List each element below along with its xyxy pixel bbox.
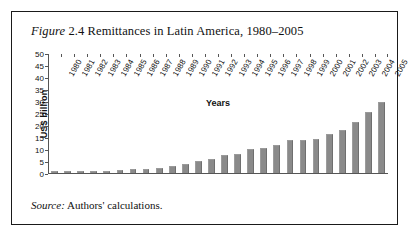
bar — [300, 140, 307, 174]
chart-plot-area: US$ billion 05101520253035404550 1980198… — [48, 54, 388, 174]
bar — [247, 149, 254, 174]
y-axis-tick-label: 20 — [35, 122, 44, 131]
y-axis-tick-labels: 05101520253035404550 — [24, 54, 44, 174]
bar — [352, 122, 359, 174]
bar — [365, 112, 372, 174]
x-axis-title: Years — [48, 98, 388, 108]
y-axis-tick-label: 50 — [35, 50, 44, 59]
figure-caption-text: 2.4 Remittances in Latin America, 1980–2… — [65, 24, 303, 38]
y-axis-tick-label: 45 — [35, 62, 44, 71]
y-axis-tick-mark — [45, 174, 48, 175]
source-text: Authors' calculations. — [65, 199, 163, 211]
figure-caption: Figure 2.4 Remittances in Latin America,… — [31, 24, 304, 39]
y-axis-tick-label: 40 — [35, 74, 44, 83]
x-axis-tick-label: 1980 — [66, 58, 83, 78]
bar — [326, 134, 333, 174]
y-axis-tick-label: 25 — [35, 110, 44, 119]
bar — [378, 102, 385, 174]
y-axis-tick-label: 35 — [35, 86, 44, 95]
y-axis-tick-label: 0 — [40, 170, 44, 179]
bar — [273, 145, 280, 174]
figure-frame: Figure 2.4 Remittances in Latin America,… — [11, 11, 398, 225]
bar — [339, 130, 346, 174]
bar — [313, 139, 320, 174]
bar — [221, 155, 228, 174]
y-axis-tick-label: 10 — [35, 146, 44, 155]
y-axis-tick-label: 15 — [35, 134, 44, 143]
y-axis-tick-label: 5 — [40, 158, 44, 167]
y-axis-tick-label: 30 — [35, 98, 44, 107]
bar — [234, 154, 241, 174]
bar — [208, 159, 215, 174]
source-label: Source: — [31, 199, 65, 211]
source-note: Source: Authors' calculations. — [31, 199, 162, 211]
bar — [260, 148, 267, 174]
x-axis-line — [48, 173, 388, 174]
x-axis-tick-labels: 1980198119821983198419851986198719881989… — [48, 54, 388, 94]
figure-caption-label: Figure — [31, 24, 65, 38]
bar — [287, 140, 294, 174]
